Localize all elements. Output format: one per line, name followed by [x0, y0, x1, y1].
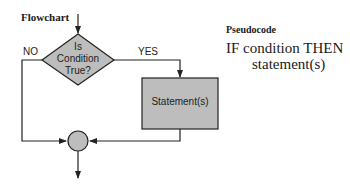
statement-text: Statement(s) — [151, 96, 208, 107]
statement-return-path — [90, 129, 180, 141]
yes-label: YES — [138, 46, 158, 57]
no-label: NO — [23, 46, 38, 57]
junction-circle — [68, 131, 88, 151]
decision-text-2: Condition — [57, 53, 99, 64]
flowchart-diagram: Is Condition True? NO YES Statement(s) — [0, 0, 350, 191]
pseudocode-line-1: IF condition THEN — [226, 40, 343, 57]
decision-text-3: True? — [65, 65, 91, 76]
yes-path — [114, 60, 180, 77]
decision-text-1: Is — [74, 41, 82, 52]
pseudocode-line-2: statement(s) — [252, 56, 325, 73]
pseudocode-title: Pseudocode — [226, 24, 276, 35]
